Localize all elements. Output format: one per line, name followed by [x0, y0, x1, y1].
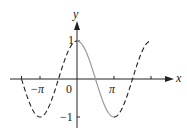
pi-label: π: [109, 82, 116, 96]
x-axis-label: x: [175, 71, 182, 85]
neg-pi-label: −π: [30, 82, 45, 96]
y-neg-one-label: −1: [60, 110, 73, 124]
axes: [10, 28, 168, 128]
cosine-graph: y x 0 −π π 1 −1: [0, 0, 187, 140]
origin-label: 0: [66, 82, 72, 96]
x-axis-arrow-icon: [165, 76, 174, 82]
y-axis-arrow-icon: [74, 21, 80, 30]
y-one-label: 1: [68, 33, 74, 47]
y-axis-label: y: [72, 7, 79, 21]
